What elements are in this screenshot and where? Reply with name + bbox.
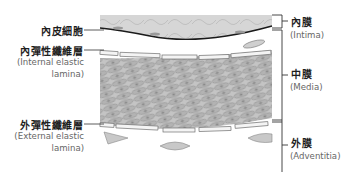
label-external-lamina-en-1: (External elastic xyxy=(0,130,84,142)
label-intima-zh: 內膜 xyxy=(291,14,312,29)
bracket-media xyxy=(272,30,282,120)
intima-region xyxy=(100,15,272,39)
label-intima-en: (Intima) xyxy=(290,29,324,41)
media-region xyxy=(100,50,272,129)
label-external-lamina-en-2: lamina) xyxy=(0,142,84,154)
label-adventitia-zh: 外膜 xyxy=(291,135,312,150)
label-media-en: (Media) xyxy=(290,81,323,93)
label-media-zh: 中膜 xyxy=(291,66,312,81)
layer-brackets xyxy=(272,15,288,172)
label-internal-lamina-en-2: lamina) xyxy=(0,68,84,80)
label-internal-lamina-en-1: (Internal elastic xyxy=(0,56,84,68)
label-endothelial-zh: 內皮細胞 xyxy=(0,23,83,38)
label-adventitia-en: (Adventitia) xyxy=(290,150,341,162)
bracket-intima xyxy=(272,15,282,28)
